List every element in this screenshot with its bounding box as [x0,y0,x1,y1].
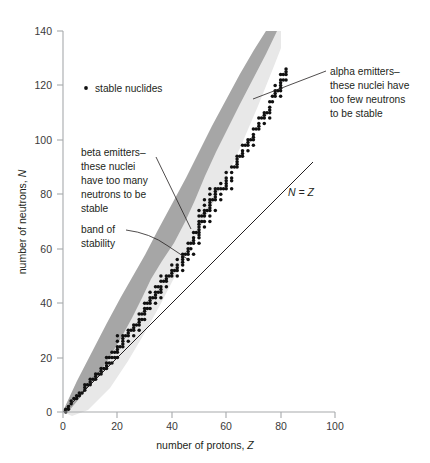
legend-dot-icon [84,86,88,90]
nuclide-dot [116,334,120,338]
nuclide-dot [175,274,179,278]
n-equals-z-label-group: N = Z [288,186,315,198]
nuclide-dot [159,296,163,300]
nuclide-dot [219,182,223,186]
beta-line-5: stable [81,203,109,214]
x-tick-label-20: 20 [111,420,123,432]
x-axis-tick-labels: 0 20 40 60 80 100 [60,420,344,432]
y-tick-label-60: 60 [40,243,52,255]
y-tick-label-80: 80 [40,188,52,200]
beta-line-1: beta emitters– [81,147,146,158]
nuclide-dot [116,356,120,360]
nuclide-dot [192,252,196,256]
nuclide-dot [189,247,193,251]
nuclide-dot [197,242,201,246]
y-axis-title: number of neutrons, N [16,169,28,274]
alpha-line-3: too few neutrons [330,94,405,105]
y-tick-label-20: 20 [40,352,52,364]
nuclide-dot [69,399,73,403]
nuclide-dot [159,285,163,289]
nuclide-dot [203,220,207,224]
n-equals-z-label: N = Z [288,186,315,198]
y-tick-label-140: 140 [34,25,52,37]
nuclide-dot [148,307,152,311]
x-tick-label-100: 100 [326,420,344,432]
alpha-line-2: these nuclei have [330,80,410,91]
nuclide-dot [246,149,250,153]
nuclide-dot [224,176,228,180]
y-axis-ticks [57,31,63,412]
nuclide-dot [273,84,277,88]
nuclide-chart-figure: 0 20 40 60 80 100 120 140 0 20 40 60 80 … [0,0,430,463]
nuclide-dot [252,133,256,137]
nuclide-dot [67,405,71,409]
nuclide-dot [192,236,196,240]
nuclide-dot [203,198,207,202]
nuclide-dot [203,225,207,229]
x-tick-label-80: 80 [275,420,287,432]
x-axis-title-italic: Z [246,439,254,451]
beta-line-4: neutrons to be [81,189,146,200]
nuclide-dot [230,187,234,191]
x-tick-label-0: 0 [60,420,66,432]
nuclide-dot [208,193,212,197]
y-tick-label-40: 40 [40,297,52,309]
alpha-line-4: to be stable [330,108,383,119]
nuclide-dot [241,149,245,153]
chart-svg: 0 20 40 60 80 100 120 140 0 20 40 60 80 … [0,0,430,463]
nuclide-dot [257,122,261,126]
nuclide-dot [284,67,288,71]
y-axis-title-italic: N [16,169,28,177]
nuclide-dot [159,274,163,278]
nuclide-dot [116,339,120,343]
nuclide-dot [175,263,179,267]
nuclide-dot [110,361,114,365]
nuclide-dot [137,329,141,333]
beta-line-2: these nuclei [81,161,135,172]
nuclide-dot [208,187,212,191]
legend: stable nuclides [84,83,162,94]
nuclide-dot [230,176,234,180]
nuclide-dot [252,144,256,148]
y-tick-label-120: 120 [34,79,52,91]
nuclide-dot [263,122,267,126]
nuclide-dot [165,285,169,289]
nuclide-dot [132,334,136,338]
x-axis-title-plain: number of protons, [156,439,247,451]
nuclide-dot [219,198,223,202]
band-line-2: stability [81,238,116,249]
x-tick-label-60: 60 [220,420,232,432]
nuclide-dot [208,214,212,218]
beta-line-3: have too many [81,175,149,186]
alpha-line-1: alpha emitters– [330,66,400,77]
nuclide-dot [203,203,207,207]
nuclide-dot [175,258,179,262]
nuclide-dot [170,263,174,267]
x-axis-ticks [63,412,335,418]
nuclide-dot [148,291,152,295]
x-tick-label-40: 40 [166,420,178,432]
y-tick-label-0: 0 [46,406,52,418]
legend-label-stable-nuclides: stable nuclides [95,83,162,94]
nuclide-dot [127,339,131,343]
x-axis-title: number of protons, Z [156,439,254,451]
y-axis-title-plain: number of neutrons, [16,177,28,274]
y-axis-tick-labels: 0 20 40 60 80 100 120 140 [34,25,52,418]
nuclide-dot [197,209,201,213]
nuclide-dot [80,391,84,395]
nuclide-dot [208,220,212,224]
nuclide-dot [230,171,234,175]
nuclide-dot [268,105,272,109]
nuclide-dot [279,95,283,99]
nuclide-dot [224,171,228,175]
nuclide-dot [268,116,272,120]
nuclide-dot [143,318,147,322]
band-line-1: band of [81,224,115,235]
nuclide-dot [181,269,185,273]
y-tick-label-100: 100 [34,134,52,146]
nuclide-dot [219,193,223,197]
nuclide-dot [284,78,288,82]
nuclide-dot [154,301,158,305]
nuclide-dot [271,100,275,104]
nuclide-dot [214,209,218,213]
